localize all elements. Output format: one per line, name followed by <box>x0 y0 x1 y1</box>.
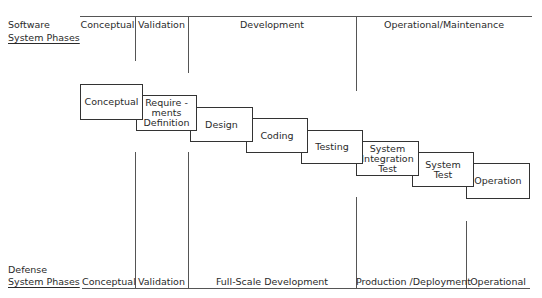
waterfall-step-testing: Testing <box>301 130 363 164</box>
defense-phase-operational: Operational <box>466 276 530 287</box>
software-phase-development: Development <box>188 19 356 30</box>
step-label: Conceptual <box>85 97 139 107</box>
step-label: Design <box>205 120 238 130</box>
software-phase-conceptual: Conceptual <box>80 19 135 30</box>
step-label: Definition <box>143 118 189 128</box>
waterfall-step-requirements-definition: Require -mentsDefinition <box>136 95 197 131</box>
defense-title-line2: System Phases <box>8 276 80 287</box>
software-title-line1: Software <box>8 19 50 30</box>
step-label: Operation <box>474 176 521 186</box>
defense-title-line1: Defense <box>8 264 47 275</box>
waterfall-step-coding: Coding <box>246 118 308 153</box>
software-phase-validation: Validation <box>135 19 188 30</box>
step-label: Test <box>361 164 413 174</box>
step-label: Test <box>425 170 460 180</box>
defense-bottom-rule <box>82 288 530 289</box>
software-top-rule <box>80 16 532 17</box>
defense-divider-2 <box>188 152 189 288</box>
waterfall-step-system-test: SystemTest <box>412 152 474 187</box>
waterfall-step-conceptual: Conceptual <box>80 84 143 120</box>
waterfall-step-operation: Operation <box>466 163 530 199</box>
waterfall-step-system-integration-test: SystemIntegrationTest <box>356 141 419 176</box>
defense-phase-validation: Validation <box>135 276 188 287</box>
step-label: System <box>425 160 460 170</box>
defense-phase-production-deployment: Production /Deployment <box>356 276 466 287</box>
step-label: Integration <box>361 154 413 164</box>
defense-divider-1 <box>135 152 136 288</box>
defense-phase-full-scale-development: Full-Scale Development <box>188 276 356 287</box>
software-phase-operational-maintenance: Operational/Maintenance <box>356 19 532 30</box>
step-label: Coding <box>260 131 293 141</box>
step-label: System <box>361 144 413 154</box>
defense-phase-conceptual: Conceptual <box>82 276 135 287</box>
waterfall-step-design: Design <box>190 107 253 142</box>
step-label: Testing <box>315 142 348 152</box>
defense-divider-3 <box>356 197 357 288</box>
software-title-line2: System Phases <box>8 32 80 43</box>
